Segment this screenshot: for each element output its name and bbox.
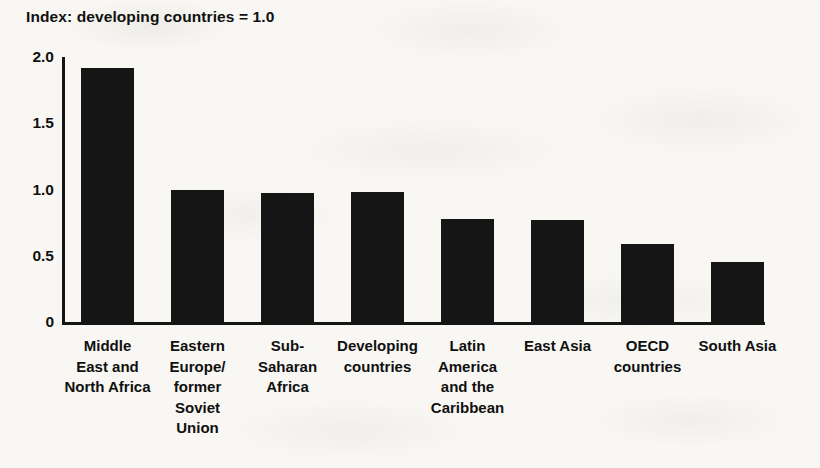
bar xyxy=(531,220,584,322)
x-axis-line xyxy=(62,322,765,325)
bar-chart-figure: Index: developing countries = 1.0 00.51.… xyxy=(0,0,820,468)
x-axis-category-labels: Middle East and North AfricaEastern Euro… xyxy=(62,336,772,466)
y-tick-label: 2.0 xyxy=(8,48,54,66)
bar xyxy=(621,244,674,322)
bar xyxy=(261,193,314,322)
y-tick-label: 0.5 xyxy=(8,247,54,265)
plot-area: 00.51.01.52.0 xyxy=(62,57,765,322)
y-tick-label: 0 xyxy=(8,313,54,331)
bar xyxy=(711,262,764,322)
y-tick-label: 1.0 xyxy=(8,181,54,199)
y-axis-tick-labels: 00.51.01.52.0 xyxy=(8,57,62,325)
bar xyxy=(441,219,494,322)
bar xyxy=(171,190,224,323)
chart-title: Index: developing countries = 1.0 xyxy=(26,8,274,26)
x-axis-label: South Asia xyxy=(678,336,798,357)
y-axis-line xyxy=(62,57,65,322)
bar xyxy=(351,192,404,322)
y-tick-label: 1.5 xyxy=(8,114,54,132)
bar xyxy=(81,68,134,322)
